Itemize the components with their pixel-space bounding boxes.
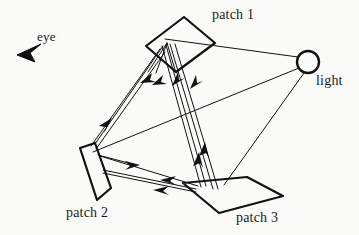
light-label: light: [316, 74, 343, 88]
arrowhead-patch3-to-patch2-2: [153, 186, 169, 195]
patch-3-label: patch 3: [236, 211, 278, 225]
arrowhead-patch2-to-patch1: [99, 118, 112, 133]
ray-patch2-to-patch3-rail-a: [103, 170, 196, 189]
light-source-circle-icon[interactable]: [297, 51, 319, 73]
arrowhead-patch2-to-patch3-1: [125, 161, 140, 170]
ray-patch2-to-patch1-rail-a: [95, 46, 163, 144]
eye-wedge-icon[interactable]: [17, 44, 41, 62]
arrowhead-patch1-down-4: [190, 75, 203, 89]
ray-arrowheads: [99, 72, 209, 195]
ray-patch1-to-patch3-rail-a: [170, 44, 213, 189]
ray-light-to-patch1: [165, 39, 298, 57]
patch-3-parallelogram[interactable]: [183, 177, 283, 213]
ray-patch1-to-patch2-rail-b: [96, 52, 165, 149]
ray-patch3-to-patch1-rail-a: [166, 45, 206, 186]
arrowhead-patch3-to-patch1-1: [199, 142, 209, 158]
patch-1-label: patch 1: [212, 8, 254, 22]
ray-patch3-to-patch2-rail-a: [100, 156, 198, 186]
ray-patch1-to-patch2-rail-a: [91, 49, 160, 146]
patch-2-quadrilateral[interactable]: [80, 143, 111, 200]
eye-label: eye: [37, 30, 56, 43]
ray-light-to-patch3: [224, 73, 304, 185]
radiosity-light-transport-figure: patch 1 patch 2 patch 3 eye light: [0, 0, 359, 235]
arrowhead-patch1-down-2: [152, 75, 167, 85]
ray-lines: [91, 39, 304, 192]
patch-2-label: patch 2: [66, 206, 108, 220]
